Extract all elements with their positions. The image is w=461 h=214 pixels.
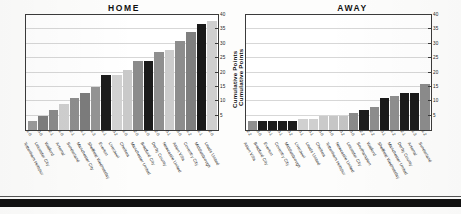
y-tick-label: 15 bbox=[433, 83, 438, 88]
bar bbox=[112, 75, 122, 130]
bar bbox=[175, 41, 185, 130]
y-tick-label: 40 bbox=[433, 12, 438, 17]
y-tick-label: 10 bbox=[220, 98, 225, 103]
y-tick-mark bbox=[428, 43, 431, 44]
bar-value-label: 3-0 bbox=[256, 129, 263, 137]
y-tick-label: 30 bbox=[433, 40, 438, 45]
plot-area-home bbox=[25, 14, 219, 131]
bar bbox=[420, 84, 429, 130]
bar-value-label: 1-1 bbox=[79, 129, 86, 137]
bar bbox=[70, 98, 80, 130]
bar-value-label: 2-0 bbox=[133, 129, 140, 137]
y-tick-label: 35 bbox=[220, 26, 225, 31]
chart-page: HOME 510152025303540 Cumulative Points 1… bbox=[0, 0, 461, 214]
y-tick-label: 25 bbox=[220, 55, 225, 60]
bar-value-label: 0-0 bbox=[349, 129, 356, 137]
bar-value-label: 0-0 bbox=[328, 129, 335, 137]
bar-value-label: 2-1 bbox=[69, 129, 76, 137]
page-bottom-rule bbox=[0, 199, 461, 207]
bar bbox=[298, 119, 307, 131]
y-tick-label: 35 bbox=[433, 26, 438, 31]
bar-value-label: 0-0 bbox=[37, 129, 44, 137]
bar-value-label: 0-1 bbox=[266, 129, 273, 137]
y-tick-mark bbox=[215, 100, 218, 101]
bar bbox=[319, 116, 328, 130]
y-tick-label: 30 bbox=[220, 40, 225, 45]
bar-value-label: 0-0 bbox=[318, 129, 325, 137]
bar bbox=[59, 104, 69, 130]
bar bbox=[309, 119, 318, 131]
y-tick-mark bbox=[215, 72, 218, 73]
bar-value-label: 0-1 bbox=[379, 129, 386, 137]
bar bbox=[123, 70, 133, 130]
bar-group-away bbox=[246, 15, 431, 130]
y-tick-mark bbox=[428, 115, 431, 116]
y-axis-title-away: Cumulative Points bbox=[237, 49, 244, 106]
bar-value-label: 1-2 bbox=[390, 129, 397, 137]
y-tick-mark bbox=[428, 100, 431, 101]
bar bbox=[186, 32, 196, 130]
y-tick-mark bbox=[428, 14, 431, 15]
bar-value-label: 0-2 bbox=[338, 129, 345, 137]
bar-value-label: 2-2 bbox=[359, 129, 366, 137]
y-tick-mark bbox=[215, 14, 218, 15]
bar bbox=[144, 61, 154, 130]
bar bbox=[80, 93, 90, 130]
bar-value-label: 1-3 bbox=[410, 129, 417, 137]
bar bbox=[101, 75, 111, 130]
bar bbox=[400, 93, 409, 130]
bar bbox=[410, 93, 419, 130]
x-axis-labels-home: 1-0Tottenham Hotspur0-0Leicester City2-1… bbox=[25, 130, 217, 192]
bar-value-label: 2-1 bbox=[47, 129, 54, 137]
bar bbox=[49, 110, 59, 130]
page-bottom-hairline bbox=[0, 196, 461, 197]
bar-value-label: 2-0 bbox=[207, 129, 214, 137]
bar-value-label: 2-1 bbox=[400, 129, 407, 137]
bar bbox=[38, 116, 48, 130]
bar bbox=[133, 61, 143, 130]
y-tick-label: 5 bbox=[433, 112, 436, 117]
bar-value-label: 2-0 bbox=[154, 129, 161, 137]
chart-panel-home: HOME 510152025303540 Cumulative Points 1… bbox=[0, 0, 236, 196]
bar bbox=[197, 24, 207, 130]
bar-value-label: 1-1 bbox=[101, 129, 108, 137]
bar-value-label: 0-1 bbox=[297, 129, 304, 137]
bar-value-label: 1-0 bbox=[143, 129, 150, 137]
y-tick-mark bbox=[215, 115, 218, 116]
y-tick-label: 25 bbox=[433, 55, 438, 60]
bar bbox=[380, 98, 389, 130]
y-tick-label: 20 bbox=[220, 69, 225, 74]
bar-value-label: 1-0 bbox=[122, 129, 129, 137]
bar bbox=[339, 116, 348, 130]
bar bbox=[370, 107, 379, 130]
y-tick-mark bbox=[215, 28, 218, 29]
x-axis-labels-away: 2-2Aston Villa3-0Bradford City0-1Everton… bbox=[245, 130, 430, 192]
bar-group-home bbox=[26, 15, 218, 130]
bar-value-label: 0-1 bbox=[277, 129, 284, 137]
bar-value-label: 1-2 bbox=[420, 129, 427, 137]
y-tick-label: 10 bbox=[433, 98, 438, 103]
plot-area-away bbox=[245, 14, 432, 131]
bar bbox=[91, 87, 101, 130]
bar-value-label: 0-2 bbox=[287, 129, 294, 137]
bar-value-label: 1-2 bbox=[186, 129, 193, 137]
bar-value-label: 2-2 bbox=[246, 129, 253, 137]
y-tick-label: 15 bbox=[220, 83, 225, 88]
y-tick-mark bbox=[215, 86, 218, 87]
bar-value-label: 1-3 bbox=[90, 129, 97, 137]
bar bbox=[390, 96, 399, 131]
bar-value-label: 1-0 bbox=[58, 129, 65, 137]
y-axis-away: 510152025303540 bbox=[431, 14, 453, 129]
bar-value-label: 0-1 bbox=[165, 129, 172, 137]
bar-value-label: 2-2 bbox=[369, 129, 376, 137]
y-tick-label: 5 bbox=[220, 112, 223, 117]
bar bbox=[154, 52, 164, 130]
bar bbox=[349, 113, 358, 130]
y-tick-label: 20 bbox=[433, 69, 438, 74]
bar bbox=[207, 21, 217, 130]
bar bbox=[165, 50, 175, 131]
bar-value-label: 1-1 bbox=[197, 129, 204, 137]
y-tick-mark bbox=[215, 57, 218, 58]
bar-value-label: 3-0 bbox=[175, 129, 182, 137]
y-tick-mark bbox=[428, 28, 431, 29]
